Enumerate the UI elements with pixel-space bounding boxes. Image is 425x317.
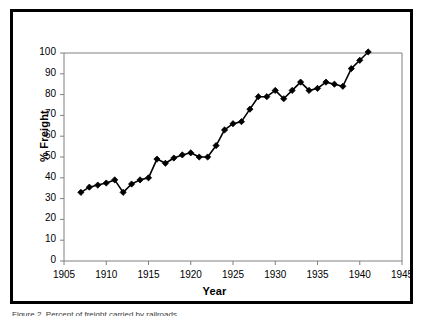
- data-point-marker: [179, 152, 185, 158]
- x-tick-label: 1930: [255, 269, 295, 280]
- data-point-marker: [95, 182, 101, 188]
- y-tick-label: 30: [30, 192, 56, 203]
- chart-canvas: 0102030405060708090100 19051910191519201…: [13, 12, 416, 307]
- plot-frame-lines: [64, 53, 402, 261]
- figure-frame: 0102030405060708090100 19051910191519201…: [10, 9, 413, 304]
- tick-marks: [60, 53, 402, 265]
- data-point-marker: [331, 81, 337, 87]
- data-point-marker: [103, 180, 109, 186]
- data-point-marker: [145, 175, 151, 181]
- x-tick-label: 1910: [86, 269, 126, 280]
- x-axis-title: Year: [13, 285, 416, 297]
- data-line-series-freight: [81, 52, 368, 192]
- y-tick-label: 10: [30, 233, 56, 244]
- data-point-marker: [154, 156, 160, 162]
- caption-text-sliver: Figure 2. Percent of freight carried by …: [12, 310, 252, 316]
- data-point-marker: [340, 83, 346, 89]
- data-point-marker: [137, 177, 143, 183]
- y-axis-title: % Freight: [38, 91, 50, 181]
- data-point-marker: [196, 154, 202, 160]
- y-tick-label: 90: [30, 67, 56, 78]
- y-tick-label: 100: [30, 46, 56, 57]
- y-tick-label: 20: [30, 212, 56, 223]
- x-tick-label: 1940: [340, 269, 380, 280]
- x-tick-label: 1935: [298, 269, 338, 280]
- x-tick-label: 1925: [213, 269, 253, 280]
- x-tick-label: 1945: [382, 269, 422, 280]
- x-tick-label: 1920: [171, 269, 211, 280]
- plot-svg: [13, 12, 416, 307]
- x-tick-label: 1905: [44, 269, 84, 280]
- data-markers: [78, 49, 372, 196]
- y-tick-label: 0: [30, 254, 56, 265]
- x-tick-label: 1915: [129, 269, 169, 280]
- data-point-marker: [188, 150, 194, 156]
